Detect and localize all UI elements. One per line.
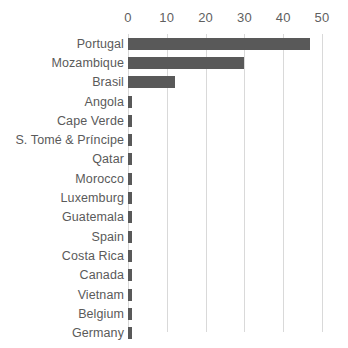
category-label-luxemburg: Luxemburg: [0, 191, 124, 205]
x-tick-label-40: 40: [276, 10, 291, 25]
bar-portugal: [128, 38, 310, 50]
category-label-germany: Germany: [0, 326, 124, 340]
category-label-brasil: Brasil: [0, 75, 124, 89]
bar-canada: [128, 269, 132, 281]
plot-area: [128, 34, 322, 332]
bar-germany: [128, 327, 132, 339]
category-label-mozambique: Mozambique: [0, 56, 124, 70]
bar-belgium: [128, 308, 132, 320]
category-label-spain: Spain: [0, 230, 124, 244]
x-tick-label-10: 10: [159, 10, 174, 25]
bar-guatemala: [128, 211, 132, 223]
category-label-cape-verde: Cape Verde: [0, 114, 124, 128]
x-axis: 01020304050: [128, 10, 322, 32]
category-label-qatar: Qatar: [0, 152, 124, 166]
bar-mozambique: [128, 57, 244, 69]
bar-angola: [128, 96, 132, 108]
bar-chart: 01020304050 PortugalMozambiqueBrasilAngo…: [0, 0, 348, 348]
bar-luxemburg: [128, 192, 132, 204]
category-label-belgium: Belgium: [0, 307, 124, 321]
bar-qatar: [128, 153, 132, 165]
category-label-vietnam: Vietnam: [0, 288, 124, 302]
category-label-angola: Angola: [0, 95, 124, 109]
bars-layer: [128, 34, 322, 332]
category-label-guatemala: Guatemala: [0, 210, 124, 224]
bar-brasil: [128, 76, 175, 88]
bar-vietnam: [128, 289, 132, 301]
x-tick-label-30: 30: [237, 10, 252, 25]
category-label-s-tom-pr-ncipe: S. Tomé & Príncipe: [0, 133, 124, 147]
x-tick-label-50: 50: [315, 10, 330, 25]
x-tick-label-0: 0: [124, 10, 131, 25]
bar-spain: [128, 231, 132, 243]
x-tick-label-20: 20: [198, 10, 213, 25]
gridline-50: [322, 34, 323, 332]
bar-costa-rica: [128, 250, 132, 262]
category-label-portugal: Portugal: [0, 37, 124, 51]
bar-cape-verde: [128, 115, 132, 127]
bar-s-tom-pr-ncipe: [128, 134, 132, 146]
category-label-canada: Canada: [0, 268, 124, 282]
bar-morocco: [128, 173, 132, 185]
category-label-costa-rica: Costa Rica: [0, 249, 124, 263]
category-axis-labels: PortugalMozambiqueBrasilAngolaCape Verde…: [0, 34, 124, 332]
category-label-morocco: Morocco: [0, 172, 124, 186]
